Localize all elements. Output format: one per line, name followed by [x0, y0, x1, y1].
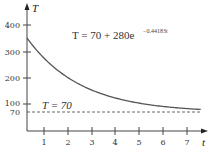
x-tick-5: 5 — [136, 138, 141, 147]
axes: T t — [25, 2, 209, 148]
x-tick-6: 6 — [160, 138, 165, 147]
equation-label: T = 70 + 280e — [72, 29, 134, 41]
x-axis-label: t — [202, 136, 206, 148]
x-tick-1: 1 — [41, 138, 46, 147]
y-tick-400: 400 — [5, 21, 20, 30]
y-axis-label: T — [32, 2, 39, 14]
asymptote-label: T = 70 — [42, 99, 72, 111]
equation-exponent: −0.44183t — [143, 28, 168, 34]
y-tick-70: 70 — [10, 108, 20, 117]
y-tick-300: 300 — [5, 48, 20, 57]
y-tick-200: 200 — [5, 74, 20, 83]
y-axis-arrow-icon — [25, 3, 30, 10]
equation-main: T = 70 + 280e — [72, 29, 134, 41]
x-ticks: 1 2 3 4 5 6 7 — [41, 127, 189, 147]
x-tick-2: 2 — [65, 138, 70, 147]
chart-svg: T t 400 300 200 100 70 1 2 3 4 5 6 7 T =… — [0, 0, 211, 152]
y-tick-100: 100 — [5, 99, 20, 108]
x-tick-4: 4 — [112, 138, 117, 147]
x-tick-3: 3 — [89, 138, 94, 147]
x-tick-7: 7 — [184, 138, 189, 147]
x-axis-arrow-icon — [201, 129, 208, 134]
